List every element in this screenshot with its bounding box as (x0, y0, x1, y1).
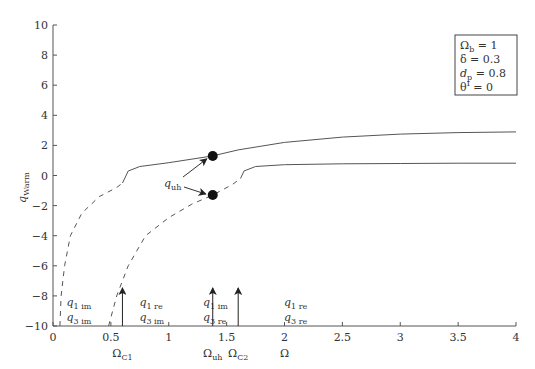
y-tick-label: 4 (41, 109, 48, 122)
omega-label: ΩC1 (112, 347, 132, 362)
parameter-box: Ωb = 1δ = 0.3dp = 0.8θI = 0 (455, 35, 517, 95)
region-label: q3 im (139, 311, 164, 326)
region-label: q1 im (203, 296, 228, 311)
y-tick-label: −2 (32, 200, 48, 213)
x-axis-label: Ω (280, 347, 289, 360)
x-tick-label: 0 (50, 331, 57, 344)
region-label: q3 re (284, 311, 308, 326)
region-label: q3 im (66, 311, 91, 326)
y-tick-label: −8 (32, 290, 48, 303)
region-label: q1 re (139, 296, 163, 311)
solid-curve (241, 163, 517, 178)
parameter-row: Ωb = 1 (460, 39, 497, 54)
y-tick-label: −10 (25, 320, 48, 333)
y-tick-label: 0 (41, 170, 48, 183)
x-tick-label: 1.5 (218, 331, 236, 344)
y-tick-label: 8 (41, 49, 48, 62)
y-tick-label: 2 (41, 139, 48, 152)
x-tick-label: 2.5 (334, 331, 352, 344)
solid-curve (123, 132, 517, 183)
y-tick-label: −4 (32, 230, 48, 243)
y-axis-label: qWarm (16, 172, 31, 203)
x-tick-label: 2 (281, 331, 288, 344)
region-label: q3 re (203, 311, 227, 326)
chart-svg: 00.511.522.533.541086420−2−4−6−8−10qWarm… (0, 0, 535, 369)
q-uh-marker (208, 151, 218, 161)
x-tick-label: 3 (397, 331, 404, 344)
region-label: q1 re (284, 296, 308, 311)
region-label: q1 im (66, 296, 91, 311)
axes: 00.511.522.533.541086420−2−4−6−8−10qWarm… (16, 19, 520, 360)
y-tick-label: −6 (32, 260, 48, 273)
omega-label: Ωuh (203, 347, 222, 362)
y-tick-label: 6 (41, 79, 48, 92)
x-tick-label: 3.5 (449, 331, 467, 344)
chart: 00.511.522.533.541086420−2−4−6−8−10qWarm… (0, 0, 535, 369)
x-tick-label: 0.5 (102, 331, 120, 344)
q-uh-marker (208, 190, 218, 200)
x-tick-label: 4 (513, 331, 520, 344)
q-uh-arrow-upper (183, 159, 207, 177)
parameter-row: θI = 0 (460, 79, 493, 94)
y-tick-label: 10 (34, 19, 48, 32)
q-uh-label: quh (164, 177, 181, 192)
q-uh-arrow-lower (184, 187, 206, 194)
omega-label: ΩC2 (228, 347, 248, 362)
x-tick-label: 1 (165, 331, 172, 344)
parameter-row: δ = 0.3 (460, 53, 500, 66)
